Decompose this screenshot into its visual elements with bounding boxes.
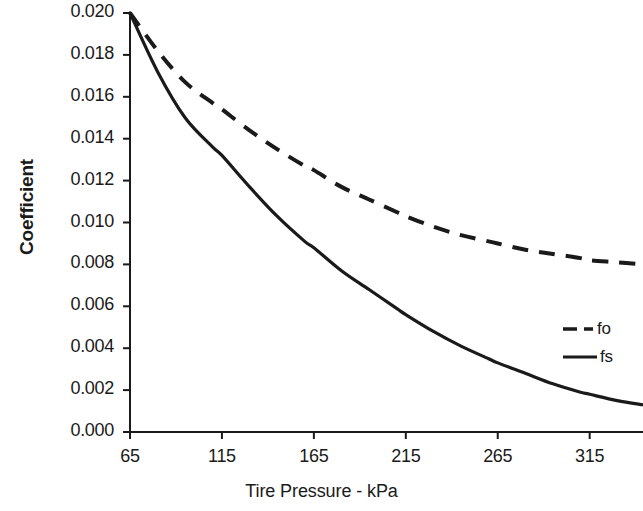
y-tick-label: 0.016 [18,85,114,106]
series-line-fo [130,13,643,264]
y-axis-ticks [123,13,130,432]
legend-label-fs: fs [600,347,613,367]
y-tick-label: 0.002 [18,378,114,399]
x-tick-label: 265 [463,446,533,467]
x-tick-label: 315 [555,446,625,467]
x-tick-label: 65 [95,446,165,467]
y-tick-label: 0.020 [18,1,114,22]
y-tick-label: 0.006 [18,294,114,315]
y-tick-label: 0.000 [18,420,114,441]
x-tick-label: 215 [371,446,441,467]
legend-label-fo: fo [597,319,611,339]
x-tick-label: 165 [279,446,349,467]
x-axis-ticks [130,432,590,439]
y-axis-title: Coefficient [16,132,38,282]
x-tick-label: 115 [187,446,257,467]
y-tick-label: 0.018 [18,43,114,64]
chart-figure: 0.0000.0020.0040.0060.0080.0100.0120.014… [0,0,643,511]
y-tick-label: 0.004 [18,336,114,357]
x-axis-title: Tire Pressure - kPa [0,481,643,502]
